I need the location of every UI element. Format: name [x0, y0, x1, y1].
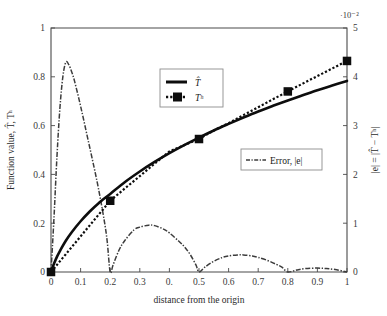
x-tick-label: 0.9: [311, 277, 323, 287]
y-right-tick-label: 2: [353, 170, 358, 180]
right-axis-exponent-label: ·10⁻²: [340, 10, 359, 20]
legend-label-exact: T̂: [195, 76, 201, 88]
y-left-tick-label: 0.8: [33, 72, 45, 82]
chart-figure: 00.10.20.30.0.50.60.70.80.91 00.20.40.60…: [0, 0, 387, 316]
y-left-tick-label: 0.2: [33, 219, 45, 229]
x-tick-label: 0.5: [193, 277, 205, 287]
y-left-tick-label: 0: [40, 267, 45, 277]
y-right-tick-label: 1: [353, 219, 358, 229]
legend-label-error: Error, |e|: [270, 156, 303, 166]
legend-swatch-discrete-marker-icon: [173, 93, 182, 102]
x-tick-label: 0.: [166, 277, 173, 287]
x-tick-label: 0.6: [223, 277, 235, 287]
data-point-marker: [343, 57, 352, 66]
x-tick-label: 0: [49, 277, 54, 287]
legend-secondary[interactable]: Error, |e|: [241, 149, 322, 170]
y-right-tick-label: 5: [353, 23, 358, 33]
y-right-tick-label: 0: [353, 267, 358, 277]
y-right-tick-label: 3: [353, 121, 358, 131]
data-point-marker: [284, 87, 293, 96]
y-left-tick-label: 0.6: [33, 121, 45, 131]
x-tick-label: 0.3: [134, 277, 146, 287]
y-axis-right-title: |e| = |T̂ − Tʰ|: [368, 127, 380, 173]
data-point-marker: [106, 197, 115, 206]
x-tick-label: 1: [345, 277, 350, 287]
x-axis-ticks: 00.10.20.30.0.50.60.70.80.91: [49, 268, 350, 287]
y-left-tick-label: 0.4: [33, 170, 45, 180]
x-tick-label: 0.1: [75, 277, 87, 287]
x-tick-label: 0.2: [104, 277, 116, 287]
y-axis-left-title: Function value, T̂, Tʰ: [4, 110, 16, 190]
x-axis-title: distance from the origin: [153, 295, 244, 305]
legend-label-discrete: Tʰ: [195, 93, 203, 103]
data-point-marker: [47, 268, 56, 277]
data-point-marker: [195, 135, 204, 144]
legend-primary[interactable]: T̂ Tʰ: [160, 69, 223, 107]
y-left-tick-label: 1: [40, 23, 45, 33]
y-axis-left-ticks: 00.20.40.60.81: [33, 23, 55, 277]
chart-plot-svg: 00.10.20.30.0.50.60.70.80.91 00.20.40.60…: [0, 0, 387, 316]
x-tick-label: 0.7: [252, 277, 264, 287]
legend-primary-box: [160, 69, 223, 107]
y-right-tick-label: 4: [353, 72, 358, 82]
x-tick-label: 0.8: [282, 277, 294, 287]
